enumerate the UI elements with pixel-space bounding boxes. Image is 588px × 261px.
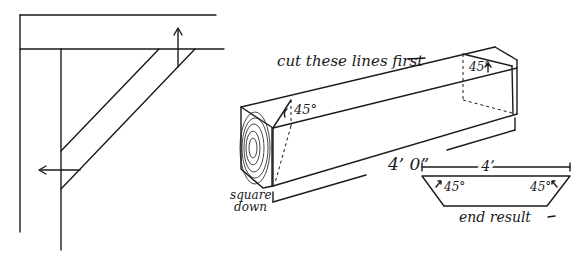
left-cut-diagonal-hidden <box>275 126 291 183</box>
right-cut-hidden-diagonal <box>463 100 512 113</box>
right-angle-label: 45° <box>468 60 490 74</box>
right-end-inner-vertical <box>512 66 513 114</box>
left-angle-label: 45° <box>293 102 317 117</box>
length-label: 4’ 0” <box>387 154 429 174</box>
square-label-line2: down <box>234 200 267 214</box>
bottom-front-edge <box>273 114 517 186</box>
brace-lower-edge <box>61 49 195 189</box>
right-end-top <box>495 47 517 60</box>
end-left-angle-label: 45° <box>443 180 465 194</box>
caption-flourish <box>548 216 555 217</box>
end-right-angle-label: 45° <box>529 180 551 194</box>
wood-grain-rings <box>240 112 270 184</box>
instruction-label: cut these lines first <box>277 52 424 70</box>
right-angle-arrow-icon <box>552 181 557 187</box>
dim-line-right <box>447 130 515 150</box>
width-label: 4’ <box>480 158 494 174</box>
top-front-edge <box>273 68 517 128</box>
up-arrow-icon <box>174 28 182 67</box>
left-arrow-icon <box>39 166 80 174</box>
dim-line-left <box>273 175 366 202</box>
left-angle-arrow-icon <box>436 181 441 187</box>
end-result-caption: end result <box>459 209 531 225</box>
post-beam-brace-drawing <box>20 15 224 250</box>
brace-upper-edge <box>61 49 159 151</box>
brace-cutting-diagram: cut these lines first 45° 45° 4’ 0” squa… <box>0 0 588 261</box>
